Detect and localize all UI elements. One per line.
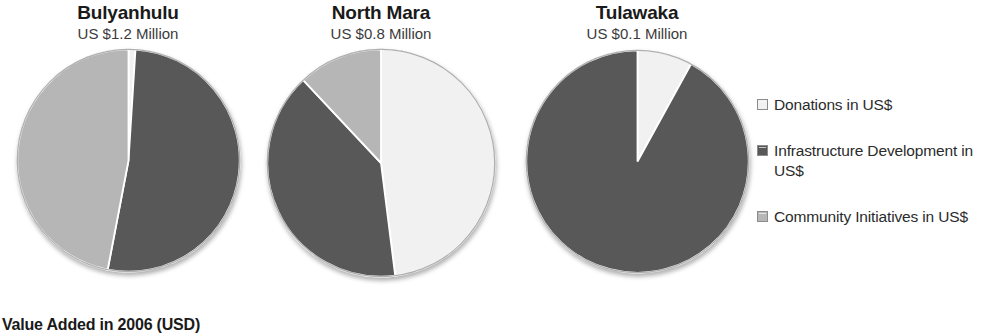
pie-panel-bulyanhulu: Bulyanhulu US $1.2 Million xyxy=(3,0,253,274)
chart-legend: Donations in US$ Infrastructure Developm… xyxy=(757,95,996,253)
pie-svg xyxy=(15,47,242,274)
legend-label-infrastructure: Infrastructure Development in US$ xyxy=(774,141,996,181)
pie-panel-north-mara: North Mara US $0.8 Million xyxy=(256,0,506,279)
pie-graphic-bulyanhulu xyxy=(15,47,242,274)
pie-graphic-north-mara xyxy=(265,47,497,279)
pie-slice xyxy=(17,49,128,269)
pie-title: North Mara xyxy=(256,2,506,24)
pie-subtitle: US $1.2 Million xyxy=(3,25,253,43)
pie-subtitle: US $0.8 Million xyxy=(256,25,506,43)
legend-item-donations: Donations in US$ xyxy=(757,95,996,115)
pie-slice xyxy=(381,49,495,275)
pie-title: Bulyanhulu xyxy=(3,2,253,24)
pie-chart-figure: Bulyanhulu US $1.2 Million North Mara US… xyxy=(0,0,996,335)
legend-label-donations: Donations in US$ xyxy=(774,95,892,115)
legend-item-infrastructure: Infrastructure Development in US$ xyxy=(757,141,996,181)
legend-label-community: Community Initiatives in US$ xyxy=(774,207,968,227)
pie-panel-tulawaka: Tulawaka US $0.1 Million xyxy=(512,0,762,275)
pie-slice xyxy=(526,50,748,272)
pie-svg xyxy=(524,48,751,275)
pie-graphic-tulawaka xyxy=(524,48,751,275)
legend-swatch-donations-icon xyxy=(757,99,768,110)
legend-swatch-community-icon xyxy=(757,211,768,222)
pie-svg xyxy=(265,47,497,279)
figure-caption: Value Added in 2006 (USD) xyxy=(2,316,200,334)
legend-item-community: Community Initiatives in US$ xyxy=(757,207,996,227)
pie-subtitle: US $0.1 Million xyxy=(512,25,762,43)
legend-swatch-infrastructure-icon xyxy=(757,145,768,156)
pie-title: Tulawaka xyxy=(512,2,762,24)
